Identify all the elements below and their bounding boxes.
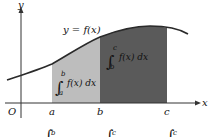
origin-label: O: [8, 106, 16, 117]
svg-text:b: b: [61, 70, 66, 78]
svg-text:c: c: [173, 129, 177, 137]
svg-text:f(x) dx: f(x) dx: [66, 78, 96, 88]
svg-text:c: c: [112, 129, 116, 137]
point-b-label: b: [97, 106, 103, 117]
svg-text:c: c: [113, 44, 117, 52]
integral-diagram: y x O y = f(x) a b c ∫ b a f(x) dx ∫ c b…: [0, 0, 210, 137]
y-axis-label: y: [17, 0, 24, 10]
bottom-formula-fragment: ∫ b ∫ c ∫ c: [45, 127, 177, 137]
x-axis-label: x: [202, 97, 208, 108]
svg-text:b: b: [51, 129, 56, 137]
point-c-label: c: [164, 106, 170, 117]
point-a-label: a: [49, 106, 55, 117]
x-axis-arrow-icon: [195, 101, 201, 106]
svg-text:f(x) dx: f(x) dx: [118, 52, 148, 62]
svg-text:b: b: [110, 63, 115, 71]
curve-label: y = f(x): [62, 24, 101, 35]
svg-text:a: a: [59, 89, 63, 97]
